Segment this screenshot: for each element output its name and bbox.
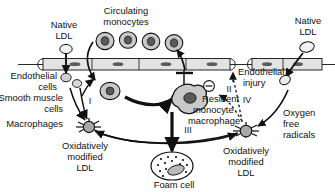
migrated-monocyte-icon <box>100 82 120 99</box>
label-endothelial-injury: Endothelial <box>238 66 284 77</box>
label-endothelial-injury-2: injury <box>243 77 266 88</box>
label-smooth-muscle-cells: Smooth muscle <box>0 92 63 103</box>
differentiation-arrow <box>125 97 172 105</box>
label-native-ldl-right: Native <box>295 15 322 26</box>
step-marker-ii: II <box>226 84 231 94</box>
atherosclerosis-diagram: Native LDL Circulating monocytes Endothe… <box>0 0 335 192</box>
ldl-particle-icon <box>60 44 72 53</box>
monocyte-cell-icon <box>96 32 114 49</box>
inhibition-symbol <box>204 81 215 92</box>
label-circulating-monocytes-2: monocytes <box>103 16 149 27</box>
step-marker-iii: III <box>184 125 192 135</box>
label-oxidized-ldl-left: Oxidatively <box>62 140 108 151</box>
label-oxygen-free-radicals-2: free <box>283 118 299 129</box>
label-oxygen-free-radicals: Oxygen <box>283 107 315 118</box>
label-native-ldl-left-2: LDL <box>55 30 72 41</box>
oxidized-ldl-star-icon <box>76 118 101 133</box>
label-native-ldl-right-2: LDL <box>299 26 316 37</box>
label-oxidized-ldl-right-3: LDL <box>237 167 254 178</box>
subendothelial-ldl-left <box>61 73 82 87</box>
label-oxidized-ldl-left-2: modified <box>67 151 102 162</box>
label-resident-macrophage-2: monocyte <box>193 104 234 115</box>
ldl-particle-icon <box>299 41 316 54</box>
label-endothelial-cells-2: cells <box>38 81 57 92</box>
label-oxidized-ldl-right: Oxidatively <box>223 145 269 156</box>
label-oxygen-free-radicals-3: radicals <box>283 129 316 140</box>
endothelium-segment-left <box>43 59 230 71</box>
monocyte-cell-icon <box>119 32 136 48</box>
ldl-uptake-arrow-left <box>82 79 94 96</box>
label-macrophages: Macrophages <box>6 118 63 129</box>
label-endothelial-cells: Endothelial <box>11 70 57 81</box>
label-resident-macrophage-3: macrophage <box>188 115 240 126</box>
circulating-monocytes-group <box>96 32 183 52</box>
label-smooth-muscle-cells-2: cells <box>44 103 63 114</box>
label-foam-cell: Foam cell <box>154 179 195 190</box>
label-oxidized-ldl-left-3: LDL <box>76 162 93 173</box>
monocyte-cell-icon <box>142 33 160 50</box>
label-resident-macrophage: Resident <box>202 93 239 104</box>
foam-cell-icon <box>151 152 193 180</box>
label-circulating-monocytes: Circulating <box>104 5 148 16</box>
step-marker-i: I <box>89 96 92 106</box>
monocyte-cell-icon <box>165 35 183 52</box>
label-oxidized-ldl-right-2: modified <box>228 156 263 167</box>
step-marker-iv: IV <box>243 95 252 105</box>
macrophage-retention-mark <box>176 70 193 85</box>
label-native-ldl-left: Native <box>51 19 78 30</box>
